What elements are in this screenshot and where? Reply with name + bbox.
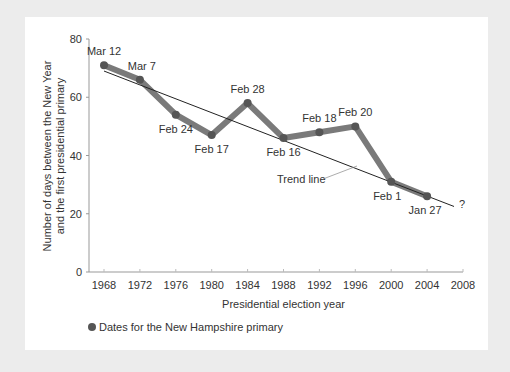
x-tick-label: 1992 [307, 279, 331, 291]
x-axis-label: Presidential election year [222, 298, 345, 310]
data-point [351, 122, 359, 130]
point-label: Feb 28 [230, 83, 264, 95]
question-mark-annotation: ? [459, 198, 465, 210]
series-line [104, 65, 427, 196]
data-point [136, 76, 144, 84]
data-point [172, 111, 180, 119]
trend-label-leader [323, 166, 357, 179]
data-point [315, 128, 323, 136]
x-tick-label: 2004 [415, 279, 439, 291]
trend-line [104, 71, 454, 206]
point-label: Feb 20 [338, 106, 372, 118]
data-point [244, 99, 252, 107]
x-tick-label: 1980 [199, 279, 223, 291]
data-point [423, 192, 431, 200]
point-label: Feb 18 [302, 112, 336, 124]
x-tick-label: 1968 [92, 279, 116, 291]
legend-marker [88, 323, 96, 331]
y-tick-label: 60 [70, 91, 82, 103]
data-point [208, 131, 216, 139]
y-tick-label: 20 [70, 208, 82, 220]
x-tick-label: 1984 [235, 279, 259, 291]
y-tick-label: 0 [76, 266, 82, 278]
y-axis-label-line2: and the first presidential primary [54, 77, 66, 234]
x-tick-label: 2000 [379, 279, 403, 291]
y-tick-label: 80 [70, 33, 82, 45]
data-point [100, 61, 108, 69]
data-point [280, 134, 288, 142]
x-tick-label: 2008 [451, 279, 475, 291]
y-tick-label: 40 [70, 150, 82, 162]
y-axis-label: Number of days between the New Year [41, 60, 53, 251]
x-tick-label: 1976 [164, 279, 188, 291]
point-label: Feb 24 [159, 123, 193, 135]
trend-line-label: Trend line [277, 173, 326, 185]
x-tick-label: 1988 [271, 279, 295, 291]
point-label: Mar 12 [87, 45, 121, 57]
line-chart: 0204060801968197219761980198419881992199… [0, 0, 510, 372]
x-tick-label: 1972 [128, 279, 152, 291]
x-tick-label: 1996 [343, 279, 367, 291]
point-label: Feb 17 [195, 143, 229, 155]
point-label: Feb 16 [266, 146, 300, 158]
point-label: Jan 27 [409, 204, 442, 216]
data-point [387, 178, 395, 186]
point-label: Feb 1 [373, 190, 401, 202]
point-label: Mar 7 [128, 60, 156, 72]
legend-label: Dates for the New Hampshire primary [99, 321, 284, 333]
